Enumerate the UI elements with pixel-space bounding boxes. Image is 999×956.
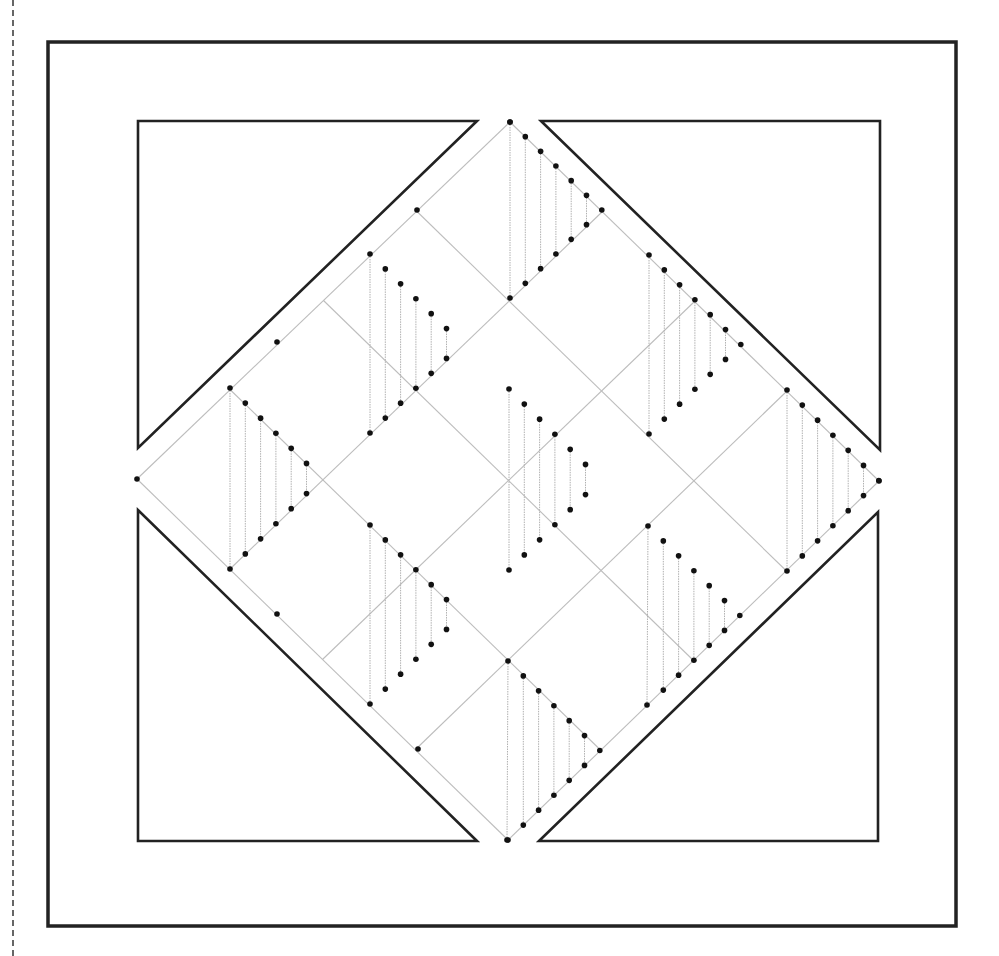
dot <box>582 733 588 739</box>
dot <box>227 566 233 572</box>
dot <box>428 642 434 648</box>
corner-triangle-top-left <box>138 121 477 448</box>
dot <box>288 506 294 512</box>
dot <box>273 430 279 436</box>
dot <box>258 536 264 542</box>
dot <box>536 807 542 813</box>
grid-line <box>417 211 787 571</box>
dot <box>444 627 450 633</box>
dot <box>815 417 821 423</box>
dot <box>428 371 434 377</box>
dot <box>566 718 572 724</box>
dot <box>830 432 836 438</box>
dot <box>599 207 605 213</box>
dot <box>583 492 589 498</box>
dot <box>784 568 790 574</box>
dot <box>568 178 574 184</box>
dot <box>522 401 528 407</box>
hatch-line <box>507 661 508 840</box>
dot <box>383 266 389 272</box>
dot <box>677 401 683 407</box>
dot <box>505 658 511 664</box>
dot <box>538 149 544 155</box>
dot <box>413 656 419 662</box>
dot <box>506 386 512 392</box>
dot <box>507 295 513 301</box>
dot <box>646 252 652 258</box>
dot <box>722 628 728 634</box>
dot <box>383 686 389 692</box>
dot <box>677 282 683 288</box>
dot <box>506 567 512 573</box>
dot <box>676 553 682 559</box>
dot <box>566 778 572 784</box>
dot <box>227 385 233 391</box>
dot <box>815 538 821 544</box>
dot <box>243 551 249 557</box>
dot <box>415 746 421 752</box>
dot <box>662 416 668 422</box>
dot <box>367 430 373 436</box>
dot <box>584 222 590 228</box>
dot <box>645 523 651 529</box>
dot <box>552 431 558 437</box>
dot <box>383 415 389 421</box>
dot <box>584 193 590 199</box>
dot <box>691 568 697 574</box>
dot <box>567 507 573 513</box>
dot <box>691 657 697 663</box>
dot <box>428 311 434 317</box>
dot <box>646 431 652 437</box>
dot <box>723 357 729 363</box>
dot <box>258 415 264 421</box>
dot <box>861 493 867 499</box>
dot <box>413 567 419 573</box>
dot <box>568 237 574 243</box>
dot <box>134 476 140 482</box>
dot <box>861 463 867 469</box>
dot <box>274 339 280 345</box>
dot <box>273 521 279 527</box>
dot <box>722 598 728 604</box>
dot <box>288 446 294 452</box>
dot <box>723 327 729 333</box>
dot <box>304 491 310 497</box>
dot <box>274 611 280 617</box>
dot <box>444 326 450 332</box>
dot <box>444 356 450 362</box>
dot <box>800 553 806 559</box>
dot <box>583 462 589 468</box>
dot <box>505 837 511 843</box>
dot <box>644 702 650 708</box>
dot <box>243 400 249 406</box>
dot <box>737 613 743 619</box>
dot <box>551 792 557 798</box>
dot <box>507 119 513 125</box>
dot <box>536 688 542 694</box>
dot <box>444 597 450 603</box>
quilt-pattern-diagram <box>0 0 999 956</box>
dot <box>552 522 558 528</box>
dot <box>537 416 543 422</box>
outer-frame <box>48 42 956 926</box>
dot <box>830 523 836 529</box>
dot <box>676 672 682 678</box>
dot <box>367 522 373 528</box>
dot <box>522 552 528 558</box>
dot <box>738 342 744 348</box>
dot <box>845 508 851 514</box>
hatched-triangles <box>230 122 864 840</box>
dot <box>692 297 698 303</box>
dot <box>661 538 667 544</box>
corner-triangle-bottom-right <box>539 512 878 841</box>
dot <box>367 701 373 707</box>
dot <box>692 386 698 392</box>
dot <box>521 673 527 679</box>
dot <box>413 296 419 302</box>
dot <box>523 281 529 287</box>
dot <box>398 552 404 558</box>
dot <box>567 447 573 453</box>
dot <box>661 687 667 693</box>
dot <box>706 583 712 589</box>
grid-line <box>415 391 787 750</box>
